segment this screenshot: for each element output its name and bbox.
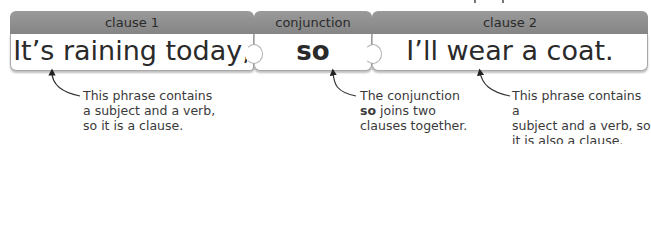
annotation-line: it is also a clause. bbox=[512, 133, 651, 144]
annotation-clause-1: This phrase contains a subject and a ver… bbox=[83, 88, 215, 133]
annotation-clause-2: This phrase contains a subject and a ver… bbox=[512, 88, 651, 144]
annotation-text: joins two bbox=[376, 103, 436, 118]
annotation-line: This phrase contains a bbox=[512, 88, 651, 118]
annotation-conjunction: The conjunction so joins two clauses tog… bbox=[360, 88, 467, 133]
annotation-line: subject and a verb, so bbox=[512, 118, 651, 133]
annotation-line: so joins two bbox=[360, 103, 467, 118]
bold-keyword: so bbox=[360, 103, 376, 118]
annotation-line: This phrase contains bbox=[83, 88, 215, 103]
annotation-line: clauses together. bbox=[360, 118, 467, 133]
annotation-line: The conjunction bbox=[360, 88, 467, 103]
annotation-line: a subject and a verb, bbox=[83, 103, 215, 118]
annotation-line: so it is a clause. bbox=[83, 118, 215, 133]
